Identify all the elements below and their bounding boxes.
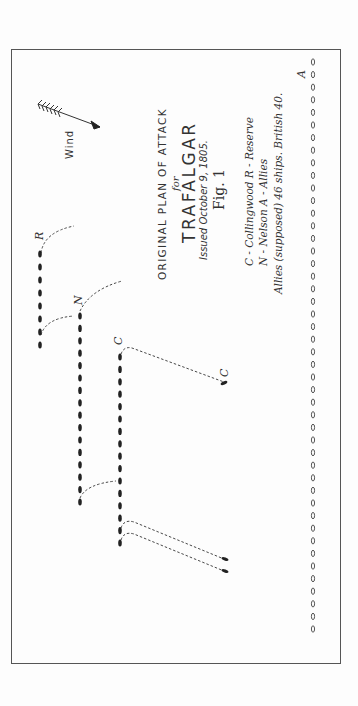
british-ship-icon bbox=[118, 477, 122, 484]
nelson-column bbox=[78, 312, 82, 505]
british-ship-icon bbox=[78, 424, 82, 431]
title-line-5: Fig. 1 bbox=[211, 169, 227, 210]
british-ship-icon bbox=[38, 250, 42, 257]
legend-line-2: N - Nelson A - Allies bbox=[257, 159, 269, 266]
allied-ship-icon bbox=[311, 500, 314, 506]
british-ship-icon bbox=[78, 461, 82, 468]
collingwood-column bbox=[118, 353, 122, 546]
allied-ship-icon bbox=[311, 336, 314, 342]
allied-ship-icon bbox=[311, 563, 314, 569]
british-ship-icon bbox=[38, 302, 42, 309]
british-ship-icon bbox=[118, 515, 122, 522]
allied-ship-icon bbox=[311, 538, 314, 544]
allied-ship-icon bbox=[311, 361, 314, 367]
allied-ship-icon bbox=[311, 286, 314, 292]
allied-ship-icon bbox=[311, 71, 314, 77]
allied-ship-icon bbox=[311, 273, 314, 279]
allied-ship-icon bbox=[311, 374, 314, 380]
reserve-label: R bbox=[33, 232, 46, 240]
nelson-label: N bbox=[72, 295, 85, 305]
british-ship-icon bbox=[38, 263, 42, 270]
title-line-1: ORIGINAL PLAN OF ATTACK bbox=[156, 108, 168, 280]
british-ship-icon bbox=[38, 328, 42, 335]
legend-line-1: C - Collingwood R - Reserve bbox=[243, 117, 255, 266]
british-ship-icon bbox=[78, 325, 82, 332]
british-ship-icon bbox=[118, 353, 122, 360]
allied-ship-icon bbox=[311, 349, 314, 355]
allied-ship-icon bbox=[311, 525, 314, 531]
british-ship-icon bbox=[118, 403, 122, 410]
allied-ship-icon bbox=[311, 97, 314, 103]
british-ship-icon bbox=[118, 415, 122, 422]
british-ship-icon bbox=[78, 387, 82, 394]
allied-ship-icon bbox=[311, 424, 314, 430]
allied-ship-icon bbox=[311, 613, 314, 619]
allied-ship-icon bbox=[311, 601, 314, 607]
allied-ship-icon bbox=[311, 437, 314, 443]
british-ship-icon bbox=[78, 312, 82, 319]
allied-ship-icon bbox=[311, 147, 314, 153]
allied-ship-icon bbox=[311, 59, 314, 65]
allied-ship-icon bbox=[311, 210, 314, 216]
british-ship-icon bbox=[118, 527, 122, 534]
allied-ship-icon bbox=[311, 223, 314, 229]
allies-label: A bbox=[295, 70, 308, 78]
british-ship-icon bbox=[118, 428, 122, 435]
allied-ship-icon bbox=[311, 122, 314, 128]
allied-ship-icon bbox=[311, 109, 314, 115]
allied-ship-icon bbox=[311, 550, 314, 556]
allied-ship-icon bbox=[311, 235, 314, 241]
legend-line-3: Allies (supposed) 46 ships. British 40. bbox=[272, 93, 284, 294]
british-ship-icon bbox=[78, 337, 82, 344]
allied-ship-icon bbox=[311, 134, 314, 140]
british-ship-icon bbox=[78, 498, 82, 505]
british-ship-icon bbox=[78, 362, 82, 369]
british-ship-icon bbox=[78, 449, 82, 456]
british-ship-icon bbox=[118, 440, 122, 447]
allied-ship-icon bbox=[311, 512, 314, 518]
fleet-layer bbox=[0, 0, 358, 706]
allied-ship-icon bbox=[311, 462, 314, 468]
allied-ship-icon bbox=[311, 475, 314, 481]
british-ship-icon bbox=[78, 474, 82, 481]
allied-ship-icon bbox=[311, 386, 314, 392]
british-ship-icon bbox=[118, 366, 122, 373]
allied-ship-icon bbox=[311, 399, 314, 405]
wind-arrow-icon bbox=[38, 100, 100, 129]
allied-ship-icon bbox=[311, 160, 314, 166]
title-line-3: TRAFALGAR bbox=[179, 121, 199, 243]
allied-ship-icon bbox=[311, 260, 314, 266]
british-ship-icon bbox=[118, 453, 122, 460]
allied-ship-icon bbox=[311, 197, 314, 203]
wind-label: Wind bbox=[64, 130, 75, 159]
british-ship-icon bbox=[38, 341, 42, 348]
title-line-4: Issued October 9, 1805. bbox=[198, 140, 209, 260]
detached-ships bbox=[220, 380, 229, 574]
course-lines bbox=[41, 226, 224, 571]
british-ship-icon bbox=[78, 374, 82, 381]
british-ship-icon bbox=[78, 486, 82, 493]
trafalgar-diagram: Wind R N C C A ORIGINAL PLAN OF ATTACK f… bbox=[0, 0, 358, 706]
british-ship-icon bbox=[118, 539, 122, 546]
allied-ship-icon bbox=[311, 84, 314, 90]
british-ship-icon bbox=[118, 391, 122, 398]
allied-ship-icon bbox=[311, 449, 314, 455]
british-ship-icon bbox=[78, 399, 82, 406]
allied-ship-icon bbox=[311, 185, 314, 191]
allied-ship-icon bbox=[311, 575, 314, 581]
british-ship-icon bbox=[38, 315, 42, 322]
reserve-squadron bbox=[38, 250, 42, 348]
british-ship-icon bbox=[118, 465, 122, 472]
allied-ship-icon bbox=[311, 298, 314, 304]
british-ship-icon bbox=[118, 502, 122, 509]
british-ship-icon bbox=[78, 350, 82, 357]
british-ship-icon bbox=[78, 436, 82, 443]
allied-ship-icon bbox=[311, 311, 314, 317]
british-ship-icon bbox=[38, 289, 42, 296]
allied-ship-icon bbox=[311, 487, 314, 493]
allied-ship-icon bbox=[311, 588, 314, 594]
collingwood-label: C bbox=[112, 337, 125, 345]
british-ship-icon bbox=[118, 378, 122, 385]
collingwood-detached-label: C bbox=[218, 369, 231, 377]
allied-ship-icon bbox=[311, 626, 314, 632]
